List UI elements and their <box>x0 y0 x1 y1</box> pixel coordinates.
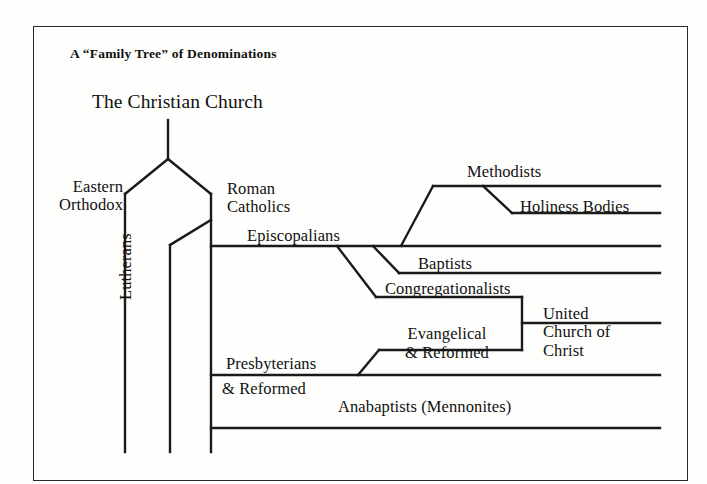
node-label-lutherans: Lutherans <box>117 233 134 300</box>
node-label-congregationalists: Congregationalists <box>385 280 511 297</box>
page-title: A “Family Tree” of Denominations <box>70 46 277 62</box>
node-label-methodists: Methodists <box>467 163 541 180</box>
node-label-baptists: Baptists <box>418 255 472 272</box>
diagram-page: A “Family Tree” of Denominations <box>0 0 707 484</box>
node-label-episcopalians: Episcopalians <box>247 227 340 244</box>
node-label-christian-church: The Christian Church <box>92 92 263 113</box>
node-label-eastern-orthodox: Eastern Orthodox <box>45 178 123 213</box>
node-label-united-church-of-christ: United Church of Christ <box>543 305 610 360</box>
node-label-presbyterians: Presbyterians <box>226 355 316 372</box>
node-label-roman-catholics: Roman Catholics <box>227 180 290 215</box>
node-label-holiness-bodies: Holiness Bodies <box>520 198 629 215</box>
node-label-evangelical-reformed: Evangelical & Reformed <box>387 325 507 362</box>
node-label-presbyterians-reformed: & Reformed <box>222 380 306 397</box>
node-label-anabaptists: Anabaptists (Mennonites) <box>338 398 511 415</box>
